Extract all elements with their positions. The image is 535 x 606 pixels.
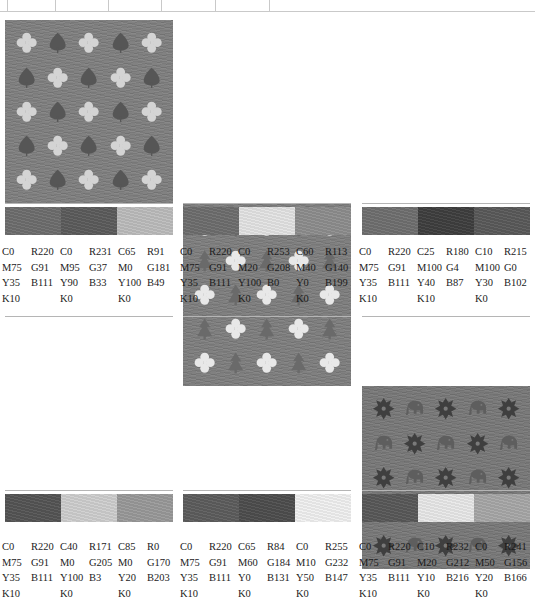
cmyk-line: M40 [296, 260, 325, 276]
cmyk-line: Y100 [60, 570, 89, 586]
cmyk-line: K0 [238, 586, 267, 602]
cmyk-line: C0 [238, 244, 267, 260]
pattern-block-4-color-chip-1 [5, 494, 61, 522]
cmyk-line: K0 [118, 586, 147, 602]
cmyk-values: C0M75Y35K10 [359, 244, 388, 306]
cmyk-values: C10M20Y10K0 [417, 539, 446, 601]
separator-rule [362, 203, 530, 204]
pattern-block-1-color-spec-3: C65M0Y100K0R91G181B49 [118, 244, 176, 306]
separator-rule [183, 203, 351, 204]
rgb-line: B111 [388, 570, 417, 586]
cmyk-line: C0 [180, 244, 209, 260]
weave-texture [61, 207, 117, 235]
rgb-line: B199 [325, 275, 354, 291]
cmyk-line: Y35 [359, 570, 388, 586]
weave-texture [418, 494, 474, 522]
rgb-values: R220G91B111 [209, 244, 238, 306]
motif-clover-icon [193, 351, 216, 374]
cmyk-line: K0 [238, 291, 267, 307]
rgb-values: R232G212B216 [446, 539, 475, 601]
rgb-line: G0 [504, 260, 533, 276]
weave-texture [239, 494, 295, 522]
rgb-line: G181 [147, 260, 176, 276]
cmyk-line: M60 [238, 555, 267, 571]
cmyk-line: K10 [359, 291, 388, 307]
cmyk-line: K0 [475, 586, 504, 602]
cmyk-values: C0M75Y35K10 [2, 244, 31, 306]
rgb-values: R253G208B0 [267, 244, 296, 306]
motif-clover-icon [15, 168, 38, 191]
cmyk-values: C65M60Y0K0 [238, 539, 267, 601]
cmyk-line: M95 [60, 260, 89, 276]
pattern-block-4-color-spec-2: C40M0Y100K0R171G205B3 [60, 539, 118, 601]
rgb-line: G208 [267, 260, 296, 276]
rgb-line: G91 [388, 555, 417, 571]
table-cell-6 [216, 0, 270, 11]
separator-rule [5, 203, 173, 204]
rgb-line: R215 [504, 244, 533, 260]
pattern-block-2-color-spec-2: C0M20Y100K0R253G208B0 [238, 244, 296, 306]
cmyk-line: C0 [2, 244, 31, 260]
motif-tree-icon [318, 317, 341, 340]
weave-texture [117, 207, 173, 235]
motif-leaf-icon [140, 66, 163, 89]
cmyk-line: C0 [475, 539, 504, 555]
rgb-line: R253 [267, 244, 296, 260]
pattern-block-6-color-specs: C0M75Y35K10R220G91B111C10M20Y10K0R232G21… [359, 539, 533, 601]
pattern-block-5-color-chip-2 [239, 494, 295, 522]
rgb-line: B49 [147, 275, 176, 291]
cmyk-line: K10 [2, 586, 31, 602]
weave-texture [183, 207, 239, 235]
motif-leaf-icon [109, 100, 132, 123]
separator-rule [5, 316, 173, 317]
cmyk-values: C0M75Y35K10 [2, 539, 31, 601]
cmyk-values: C25M100Y40K10 [417, 244, 446, 306]
rgb-line: B102 [504, 275, 533, 291]
rgb-line: B111 [388, 275, 417, 291]
pattern-block-4-color-spec-1: C0M75Y35K10R220G91B111 [2, 539, 60, 601]
motif-elephant-icon [466, 397, 489, 420]
rgb-line: G91 [388, 260, 417, 276]
cmyk-line: Y35 [180, 570, 209, 586]
cmyk-line: M75 [2, 260, 31, 276]
motif-diamond-star-icon [497, 397, 520, 420]
rgb-line: B33 [89, 275, 118, 291]
cmyk-line: M0 [118, 260, 147, 276]
motif-elephant-icon [434, 432, 457, 455]
cmyk-line: Y10 [417, 570, 446, 586]
motif-diamond-star-icon [434, 397, 457, 420]
table-cell-1 [0, 0, 8, 11]
motif-elephant-icon [497, 432, 520, 455]
motif-leaf-icon [15, 134, 38, 157]
cmyk-line: K0 [296, 586, 325, 602]
rgb-values: R220G91B111 [31, 244, 60, 306]
cmyk-values: C0M75Y35K10 [359, 539, 388, 601]
cmyk-line: Y30 [475, 275, 504, 291]
rgb-line: G212 [446, 555, 475, 571]
rgb-values: R220G91B111 [209, 539, 238, 601]
cmyk-line: Y90 [60, 275, 89, 291]
pattern-block-1-artwork [5, 20, 173, 203]
rgb-line: R220 [31, 244, 60, 260]
motif-clover-icon [109, 134, 132, 157]
cmyk-line: K10 [2, 291, 31, 307]
cmyk-line: C10 [417, 539, 446, 555]
cmyk-line: M20 [417, 555, 446, 571]
pattern-block-4-colorbar [5, 494, 173, 522]
pattern-block-5-color-spec-3: C0M10Y50K0R255G232B147 [296, 539, 354, 601]
motif-clover-icon [224, 317, 247, 340]
motif-clover-icon [77, 168, 100, 191]
rgb-values: R220G91B111 [388, 244, 417, 306]
pattern-block-1-color-chip-3 [117, 207, 173, 235]
cmyk-line: M75 [359, 260, 388, 276]
motif-diamond-star-icon [372, 466, 395, 489]
table-cell-4 [109, 0, 162, 11]
pattern-block-1-color-chip-2 [61, 207, 117, 235]
rgb-line: G232 [325, 555, 354, 571]
pattern-block-2-colorbar [183, 207, 351, 235]
cmyk-line: C0 [359, 539, 388, 555]
pattern-block-5-color-spec-1: C0M75Y35K10R220G91B111 [180, 539, 238, 601]
separator-rule [5, 490, 173, 491]
pattern-block-5-color-chip-1 [183, 494, 239, 522]
pattern-block-2-color-chip-2 [239, 207, 295, 235]
